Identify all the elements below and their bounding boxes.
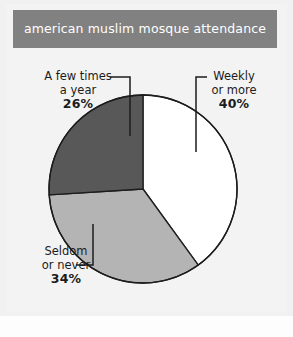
label-a-few-times-percent: 26% [32,97,124,111]
label-a-few-times-a-year: A few times a year 26% [32,70,124,111]
label-weekly-percent: 40% [197,97,271,111]
label-seldom-line2: or never [25,259,107,273]
label-a-few-times-line1: A few times [32,70,124,84]
pie-chart-infographic: american muslim mosque attendance A few … [0,0,293,337]
label-seldom-percent: 34% [25,272,107,286]
label-weekly-line1: Weekly [197,70,271,84]
label-weekly-line2: or more [197,84,271,98]
label-a-few-times-line2: a year [32,84,124,98]
label-seldom-or-never: Seldom or never 34% [25,245,107,286]
pie-chart [0,0,293,337]
label-seldom-line1: Seldom [25,245,107,259]
label-weekly-or-more: Weekly or more 40% [197,70,271,111]
